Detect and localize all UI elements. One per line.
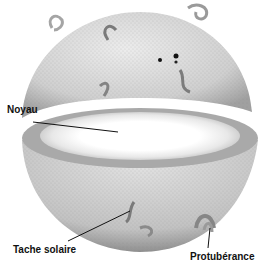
lower-hemisphere xyxy=(22,108,258,252)
prominence-leader-line xyxy=(208,228,210,248)
sun-cutaway-illustration xyxy=(0,0,267,265)
prominence-label: Protubérance xyxy=(190,251,254,262)
core-region xyxy=(40,112,240,160)
upper-hemisphere xyxy=(22,5,252,118)
core-label: Noyau xyxy=(7,104,38,115)
sunspot-label: Tache solaire xyxy=(13,244,76,255)
